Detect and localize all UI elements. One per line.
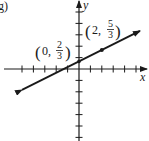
svg-text:(: (	[35, 43, 41, 62]
svg-text:2,: 2,	[92, 23, 101, 37]
svg-text:): )	[115, 22, 121, 41]
point-intercept	[77, 60, 81, 64]
y-axis-label: y	[82, 0, 89, 12]
x-axis-label: x	[139, 70, 146, 84]
svg-text:3: 3	[108, 29, 113, 40]
svg-text:0,: 0,	[42, 44, 51, 58]
svg-text:3: 3	[57, 50, 62, 61]
svg-text:5: 5	[108, 18, 113, 29]
svg-text:): )	[65, 43, 71, 62]
point-2-5-3	[100, 48, 104, 52]
svg-text:2: 2	[57, 39, 62, 50]
label-point-2-5-3: ( 2, 5 3 )	[85, 18, 121, 41]
label-point-0-2-3: ( 0, 2 3 )	[35, 39, 71, 62]
svg-text:(: (	[85, 22, 91, 41]
coordinate-plot: g) x y ( 0, 2 3 ) ( 2, 5 3 )	[0, 0, 149, 141]
panel-label: g)	[0, 0, 8, 13]
